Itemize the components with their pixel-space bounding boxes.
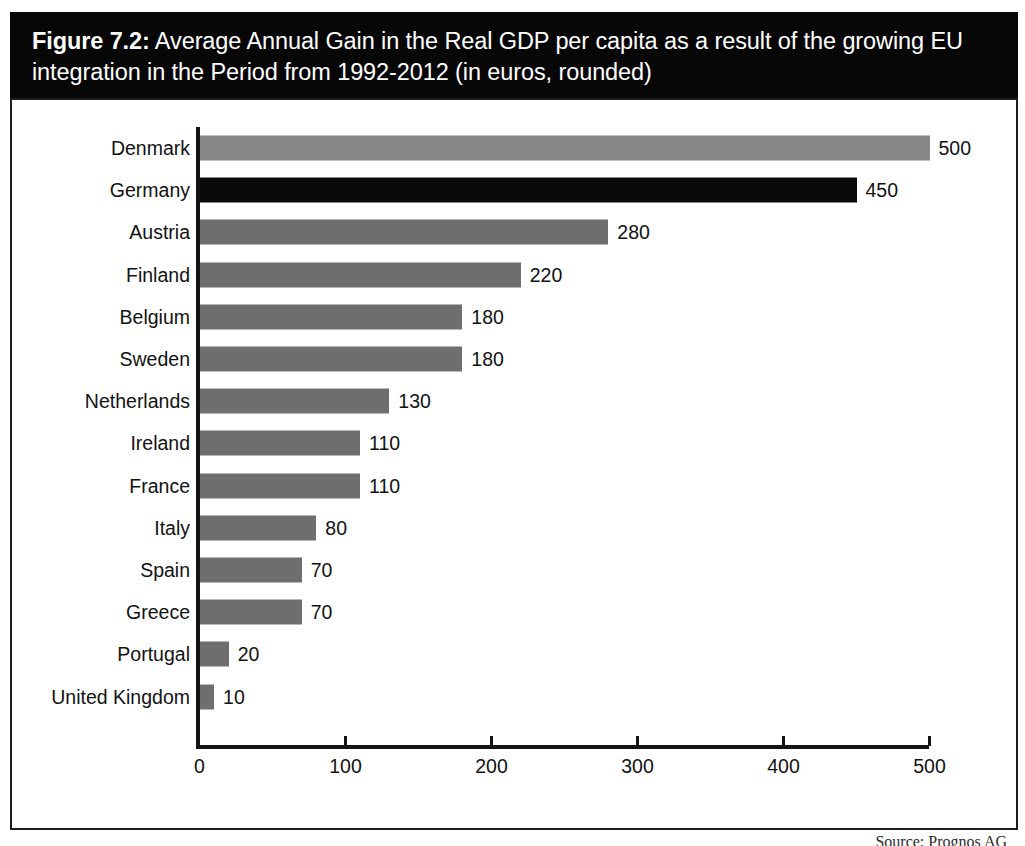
figure-number: Figure 7.2:: [32, 28, 150, 54]
bar-value-label: 110: [369, 474, 400, 497]
category-label: United Kingdom: [51, 685, 190, 708]
bar: [200, 684, 215, 709]
x-axis-tick: [344, 736, 347, 746]
category-label: Spain: [140, 559, 190, 582]
bar-value-label: 180: [471, 348, 504, 371]
figure-caption-text: Figure 7.2: Average Annual Gain in the R…: [32, 26, 992, 88]
category-label: Italy: [154, 516, 190, 539]
x-axis-tick: [636, 736, 639, 746]
bar-row: Finland220: [12, 254, 1016, 296]
bar-row: Greece70: [12, 591, 1016, 633]
bar-row: Belgium180: [12, 296, 1016, 338]
bar: [200, 515, 317, 540]
bar-value-label: 280: [617, 221, 650, 244]
category-label: Greece: [126, 601, 190, 624]
figure-caption-body: Average Annual Gain in the Real GDP per …: [32, 28, 963, 85]
bar-chart: Denmark500Germany450Austria280Finland220…: [12, 100, 1016, 828]
bar: [200, 558, 302, 583]
x-axis-tick: [782, 736, 785, 746]
bar-row: United Kingdom10: [12, 676, 1016, 718]
bar-row: France110: [12, 465, 1016, 507]
bar-row: Sweden180: [12, 338, 1016, 380]
bar: [200, 642, 229, 667]
bar-row: Germany450: [12, 169, 1016, 211]
category-label: Netherlands: [85, 390, 190, 413]
bar-value-label: 70: [311, 601, 333, 624]
bar-value-label: 450: [866, 179, 899, 202]
x-axis-tick-label: 400: [767, 755, 800, 778]
category-label: Portugal: [117, 643, 190, 666]
figure-caption-band: Figure 7.2: Average Annual Gain in the R…: [10, 12, 1018, 98]
bar: [200, 220, 609, 245]
x-axis-tick: [928, 736, 931, 746]
bar-row: Portugal20: [12, 633, 1016, 675]
bar-row: Ireland110: [12, 422, 1016, 464]
bar: [200, 178, 857, 203]
category-label: Austria: [129, 221, 190, 244]
bar-value-label: 80: [325, 516, 347, 539]
bar-row: Denmark500: [12, 127, 1016, 169]
category-label: Finland: [126, 263, 190, 286]
x-axis-tick-label: 200: [475, 755, 508, 778]
category-label: Ireland: [130, 432, 190, 455]
x-axis-tick-label: 0: [194, 755, 205, 778]
bar: [200, 136, 930, 161]
bar: [200, 347, 463, 372]
bar: [200, 262, 521, 287]
category-label: Belgium: [120, 305, 190, 328]
category-label: Sweden: [120, 348, 190, 371]
bar: [200, 600, 302, 625]
source-note: Source: Prognos AG: [0, 832, 1025, 846]
category-label: Germany: [110, 179, 190, 202]
x-axis-tick-label: 100: [329, 755, 362, 778]
plot-frame: Denmark500Germany450Austria280Finland220…: [10, 98, 1018, 830]
bar-value-label: 70: [311, 559, 333, 582]
bar-row: Spain70: [12, 549, 1016, 591]
bar-value-label: 500: [939, 137, 972, 160]
bar-value-label: 10: [223, 685, 245, 708]
bar: [200, 473, 361, 498]
category-label: Denmark: [111, 137, 190, 160]
x-axis-tick-label: 500: [913, 755, 946, 778]
bar-row: Netherlands130: [12, 380, 1016, 422]
bar-value-label: 20: [238, 643, 260, 666]
bar: [200, 304, 463, 329]
bar: [200, 389, 390, 414]
figure-container: Figure 7.2: Average Annual Gain in the R…: [10, 12, 1018, 830]
bar-row: Austria280: [12, 211, 1016, 253]
bar-value-label: 110: [369, 432, 400, 455]
bar-value-label: 180: [471, 305, 504, 328]
bar: [200, 431, 361, 456]
bar-value-label: 220: [530, 263, 563, 286]
x-axis-tick-label: 300: [621, 755, 654, 778]
bar-value-label: 130: [398, 390, 431, 413]
x-axis-tick: [490, 736, 493, 746]
x-axis-line: [196, 745, 929, 749]
category-label: France: [129, 474, 190, 497]
bar-row: Italy80: [12, 507, 1016, 549]
